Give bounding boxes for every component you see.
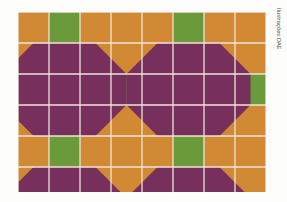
green-square: [49, 12, 80, 43]
figure-root: Ilustrações DAE: [0, 0, 287, 202]
green-square: [49, 136, 80, 167]
tile-pattern-image: [18, 12, 266, 192]
purple-octagon: [127, 43, 251, 136]
credit-label: Ilustrações DAE: [273, 8, 285, 78]
green-square: [173, 136, 204, 167]
tile-pattern-svg: [18, 12, 266, 192]
green-square: [173, 12, 204, 43]
